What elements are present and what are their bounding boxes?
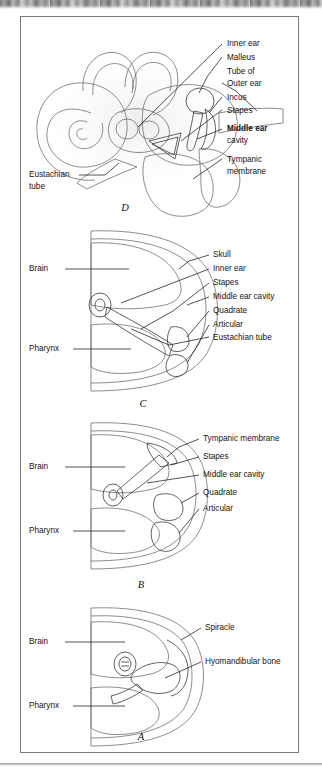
quadrate-c — [167, 327, 189, 352]
panel-c: Skull Inner ear Stapes Middle ear cavity… — [21, 225, 300, 415]
leader-stapes-c — [141, 283, 209, 329]
label-inner-ear: Inner ear — [227, 39, 260, 48]
label-tympanic-membrane-b: Tympanic membrane — [203, 434, 280, 443]
label-pharynx-b: Pharynx — [29, 526, 59, 535]
bottom-rule — [0, 763, 322, 766]
label-skull-c: Skull — [213, 250, 231, 259]
panel-b-leaders — [65, 439, 199, 533]
leader-quadrate-b — [181, 493, 199, 503]
label-tympanic: Tympanic — [227, 155, 262, 164]
label-quadrate-b: Quadrate — [203, 488, 238, 497]
hyomandibular-bone-a — [131, 663, 180, 694]
brain-cavity-c — [91, 243, 181, 309]
leader-articular-b — [179, 509, 199, 533]
label-brain-a: Brain — [29, 637, 49, 646]
panel-a-leaders — [65, 628, 201, 706]
label-malleus: Malleus — [227, 53, 255, 62]
label-middle-ear-cavity-c: Middle ear cavity — [213, 292, 275, 301]
articular-b — [151, 522, 180, 551]
label-stapes-b: Stapes — [203, 452, 229, 461]
label-quadrate-c: Quadrate — [213, 306, 248, 315]
brain-cavity-b — [91, 435, 169, 493]
label-eustachian-tube-c: Eustachian tube — [213, 333, 272, 342]
label-spiracle-a: Spiracle — [205, 623, 235, 632]
leader-middle-ear-cavity-b — [147, 475, 199, 483]
label-pharynx-c: Pharynx — [29, 344, 59, 353]
panel-d-shadow — [41, 50, 237, 194]
panel-d: Inner ear Malleus Tube of Outer ear Incu… — [21, 17, 300, 225]
leader-hyomandibular-bone-a — [165, 662, 201, 678]
label-middle-ear: Middle ear — [227, 124, 268, 133]
label-pharynx-a: Pharynx — [29, 701, 59, 710]
label-articular-b: Articular — [203, 504, 233, 513]
leader-skull-c — [179, 255, 209, 269]
quadrate-b — [154, 494, 183, 521]
label-eustachian-line2: tube — [29, 182, 45, 191]
leader-inner-ear-c — [121, 269, 209, 303]
label-outer-ear: Outer ear — [227, 79, 262, 88]
label-middle-ear-cavity-b: Middle ear cavity — [203, 470, 265, 479]
head-section-a — [91, 608, 204, 746]
panel-letter-b: B — [138, 579, 145, 590]
label-tube-of: Tube of — [227, 67, 255, 76]
leader-quadrate-c — [187, 311, 209, 337]
panel-letter-d: D — [120, 202, 129, 213]
scan-artifact-band — [0, 0, 322, 9]
leader-articular-c — [187, 325, 209, 363]
label-middle-ear-cavity-line2: cavity — [227, 136, 249, 145]
articular-c — [166, 355, 188, 377]
pharynx-cavity-a — [91, 687, 159, 735]
figure-frame: Inner ear Malleus Tube of Outer ear Incu… — [20, 16, 299, 753]
inner-ear-capsule-a — [114, 652, 136, 676]
label-membrane: membrane — [227, 167, 267, 176]
label-articular-c: Articular — [213, 320, 243, 329]
stapes-b — [117, 455, 169, 499]
panel-letter-c: C — [139, 398, 147, 409]
panel-a: Spiracle Hyomandibular bone Brain Pharyn… — [21, 600, 300, 754]
leader-spiracle-a — [181, 628, 201, 640]
label-stapes-c: Stapes — [213, 278, 239, 287]
brain-cavity-a — [91, 622, 169, 678]
label-brain-c: Brain — [29, 264, 49, 273]
panel-letter-a: A — [137, 731, 145, 742]
label-brain-b: Brain — [29, 462, 49, 471]
label-stapes: Stapes — [227, 106, 253, 115]
label-hyomandibular-bone-a: Hyomandibular bone — [205, 657, 281, 666]
panel-b: Tympanic membrane Stapes Middle ear cavi… — [21, 415, 300, 600]
label-inner-ear-c: Inner ear — [213, 264, 246, 273]
label-eustachian: Eustachian — [29, 170, 70, 179]
label-incus: Incus — [227, 93, 247, 102]
